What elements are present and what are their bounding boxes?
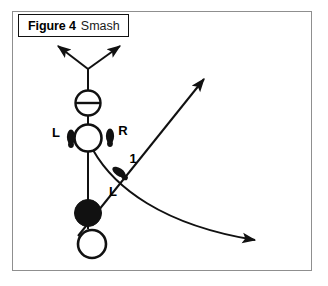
right-shoulder-arrow xyxy=(88,46,120,69)
racket-head-crossed-circle-icon xyxy=(76,91,101,116)
label-left-foot-back: L xyxy=(52,125,60,140)
left-foot-marker-back-icon xyxy=(67,130,75,148)
figure-panel: L R 1 L Figure 4 Smash xyxy=(0,0,328,286)
shuttle-trajectory-curve xyxy=(93,150,255,240)
shuttle-filled-circle-icon xyxy=(75,200,102,227)
right-foot-marker-back-icon xyxy=(106,129,114,147)
label-left-foot-front: L xyxy=(109,184,117,199)
figure-caption-title: Smash xyxy=(81,19,120,33)
player-position-open-circle-icon xyxy=(78,230,106,258)
figure-caption: Figure 4 Smash xyxy=(18,14,129,37)
label-step-number: 1 xyxy=(129,151,136,166)
left-shoulder-arrow xyxy=(58,46,88,69)
figure-caption-number: Figure 4 xyxy=(28,19,76,33)
racket-head-open-circle-icon xyxy=(75,125,102,152)
label-right-foot-back: R xyxy=(118,123,128,138)
smash-footwork-diagram: L R 1 L xyxy=(12,11,312,271)
